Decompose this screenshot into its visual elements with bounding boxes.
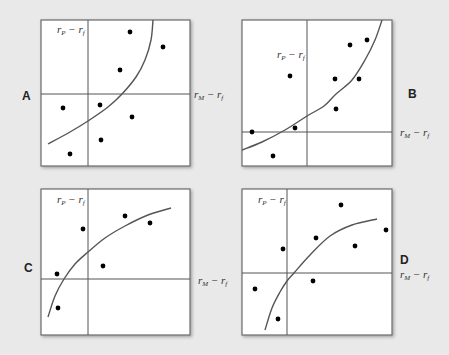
data-point [288, 74, 293, 79]
x-axis-label: rM − rf [400, 268, 430, 282]
data-point [353, 244, 358, 249]
data-point [276, 317, 281, 322]
data-point [56, 306, 61, 311]
panel-frame [41, 20, 190, 166]
panel-d: DrP − rfrM − rf [242, 189, 430, 335]
panel-letter: A [22, 89, 31, 103]
data-point [314, 236, 319, 241]
data-point [148, 221, 153, 226]
data-point [333, 77, 338, 82]
data-point [348, 43, 353, 48]
data-point [123, 214, 128, 219]
data-point [250, 130, 255, 135]
x-axis-label: rM − rf [194, 88, 224, 102]
panel-letter: D [400, 253, 409, 267]
data-point [311, 279, 316, 284]
data-point [68, 152, 73, 157]
panel-frame [41, 189, 190, 335]
x-axis-label: rM − rf [198, 274, 228, 288]
data-point [357, 77, 362, 82]
data-point [271, 154, 276, 159]
x-axis-label: rM − rf [400, 126, 430, 140]
data-point [128, 30, 133, 35]
data-point [281, 247, 286, 252]
panel-b: BrP − rfrM − rf [242, 20, 430, 166]
data-point [81, 227, 86, 232]
panel-letter: C [24, 261, 33, 275]
data-point [253, 287, 258, 292]
data-point [98, 103, 103, 108]
data-point [101, 264, 106, 269]
data-point [384, 228, 389, 233]
data-point [99, 138, 104, 143]
panels-root: ArP − rfrM − rfBrP − rfrM − rfCrP − rfrM… [22, 20, 430, 335]
data-point [161, 45, 166, 50]
panel-letter: B [408, 87, 417, 101]
panel-frame [242, 20, 392, 166]
data-point [55, 272, 60, 277]
data-point [339, 203, 344, 208]
data-point [61, 106, 66, 111]
data-point [130, 115, 135, 120]
data-point [334, 107, 339, 112]
data-point [293, 126, 298, 131]
characteristic-lines-figure: ArP − rfrM − rfBrP − rfrM − rfCrP − rfrM… [0, 0, 449, 355]
data-point [118, 68, 123, 73]
panel-frame [242, 189, 392, 335]
panel-a: ArP − rfrM − rf [22, 20, 224, 166]
data-point [365, 38, 370, 43]
panel-c: CrP − rfrM − rf [24, 189, 228, 335]
